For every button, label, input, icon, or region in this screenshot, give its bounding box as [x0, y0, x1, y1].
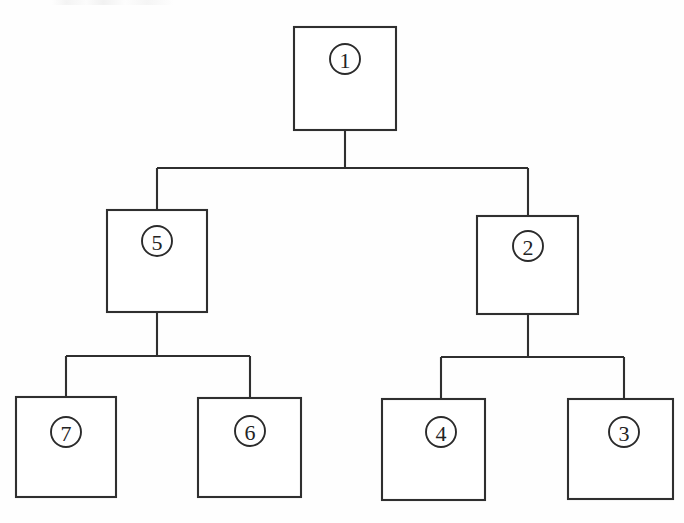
node-label-1: 1 — [340, 48, 351, 73]
node-label-2: 2 — [523, 235, 534, 260]
edge-node2-to-children — [441, 314, 624, 400]
node-group-6[interactable]: 6 — [198, 398, 301, 497]
node-group-1[interactable]: 1 — [294, 27, 396, 130]
node-label-3: 3 — [619, 421, 630, 446]
node-box-4[interactable] — [382, 399, 485, 500]
node-group-5[interactable]: 5 — [107, 210, 207, 312]
tree-diagram-svg: 1 5 2 7 6 4 3 — [0, 0, 684, 523]
node-group-4[interactable]: 4 — [382, 399, 485, 500]
edge-root-to-level2 — [157, 130, 528, 217]
tree-diagram-canvas: 1 5 2 7 6 4 3 — [0, 0, 684, 523]
node-box-6[interactable] — [198, 398, 301, 497]
node-label-5: 5 — [152, 230, 163, 255]
node-group-7[interactable]: 7 — [16, 397, 116, 497]
node-label-4: 4 — [436, 421, 447, 446]
node-box-3[interactable] — [568, 399, 673, 499]
node-label-7: 7 — [61, 421, 72, 446]
node-label-6: 6 — [245, 420, 256, 445]
node-group-3[interactable]: 3 — [568, 399, 673, 499]
node-group-2[interactable]: 2 — [477, 216, 578, 314]
node-box-1[interactable] — [294, 27, 396, 130]
edge-node5-to-children — [66, 312, 250, 399]
